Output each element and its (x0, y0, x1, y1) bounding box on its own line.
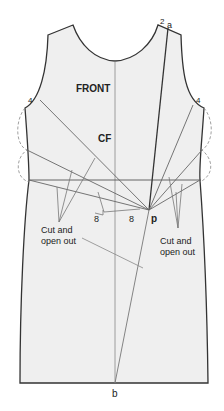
right-armhole-label: 4 (196, 96, 201, 105)
shoulder-point-label: a (167, 20, 172, 30)
pivot-label: p (151, 213, 157, 224)
hem-point-label: b (112, 388, 118, 399)
dart-right-label: 8 (129, 214, 134, 224)
left-armhole-label: 4 (28, 96, 33, 105)
pattern-diagram: 2 a FRONT CF 4 4 8 8 p b Cut and open ou… (0, 0, 224, 411)
right-cut-label-line2: open out (160, 247, 196, 257)
right-cut-label-line1: Cut and (160, 236, 192, 246)
cf-label: CF (98, 133, 111, 144)
front-label: FRONT (76, 83, 110, 94)
left-cut-label-line2: open out (41, 236, 77, 246)
dart-left-label: 8 (94, 214, 99, 224)
shoulder-number-label: 2 (160, 17, 165, 26)
left-cut-label-line1: Cut and (41, 225, 73, 235)
